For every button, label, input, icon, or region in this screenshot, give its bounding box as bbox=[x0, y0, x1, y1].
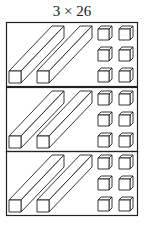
unit-cube bbox=[98, 133, 112, 147]
unit-cube bbox=[98, 91, 112, 105]
unit-cube bbox=[119, 197, 133, 211]
cube-front bbox=[98, 94, 109, 105]
cube-front bbox=[98, 200, 109, 211]
cube-front bbox=[98, 136, 109, 147]
unit-cube bbox=[98, 47, 112, 61]
unit-cube bbox=[119, 155, 133, 169]
group-panel bbox=[7, 88, 138, 152]
cube-front bbox=[119, 50, 130, 61]
unit-cube bbox=[98, 176, 112, 190]
cube-front bbox=[98, 50, 109, 61]
unit-cube bbox=[119, 91, 133, 105]
unit-cube bbox=[98, 26, 112, 40]
cube-front bbox=[119, 71, 130, 82]
unit-cube bbox=[119, 47, 133, 61]
unit-cube bbox=[98, 155, 112, 169]
group-panel bbox=[7, 23, 138, 87]
rod-front-face bbox=[37, 136, 49, 148]
cube-front bbox=[119, 158, 130, 169]
unit-cube bbox=[119, 133, 133, 147]
cube-front bbox=[119, 29, 130, 40]
cube-front bbox=[98, 158, 109, 169]
cube-front bbox=[98, 115, 109, 126]
cube-front bbox=[119, 200, 130, 211]
unit-cube bbox=[119, 68, 133, 82]
rod-front-face bbox=[9, 200, 21, 212]
cube-front bbox=[119, 136, 130, 147]
group-panel bbox=[7, 152, 138, 216]
unit-cube bbox=[98, 68, 112, 82]
base-ten-blocks-diagram bbox=[0, 0, 144, 227]
rod-front-face bbox=[37, 71, 49, 83]
unit-cube bbox=[98, 197, 112, 211]
rod-front-face bbox=[9, 71, 21, 83]
cube-front bbox=[98, 179, 109, 190]
unit-cube bbox=[119, 26, 133, 40]
rod-front-face bbox=[37, 200, 49, 212]
cube-front bbox=[98, 71, 109, 82]
unit-cube bbox=[119, 112, 133, 126]
rod-front-face bbox=[9, 136, 21, 148]
cube-front bbox=[119, 94, 130, 105]
cube-front bbox=[98, 29, 109, 40]
unit-cube bbox=[98, 112, 112, 126]
cube-front bbox=[119, 179, 130, 190]
cube-front bbox=[119, 115, 130, 126]
unit-cube bbox=[119, 176, 133, 190]
